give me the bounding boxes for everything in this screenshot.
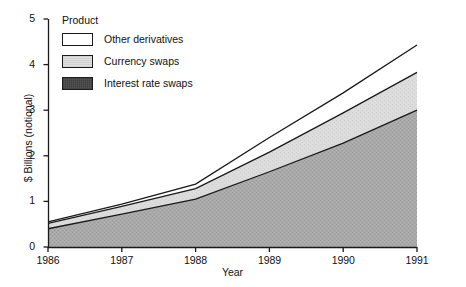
legend-item: Other derivatives [62,32,193,46]
x-axis-tick-label: 1986 [28,254,68,266]
legend-swatch-icon [62,77,93,90]
legend-item: Currency swaps [62,54,193,68]
stacked-area-chart: 543210 198619871988198919901991 $ Billio… [0,0,466,287]
legend-swatch-icon [62,33,93,46]
legend-swatch-icon [62,55,93,68]
legend-title: Product [62,14,193,26]
legend-item-label: Interest rate swaps [104,77,193,89]
x-axis-tick-label: 1988 [176,254,216,266]
x-axis-tick-label: 1989 [249,254,289,266]
y-axis-title: $ Billions (notional) [22,58,34,218]
legend-item-label: Currency swaps [104,55,179,67]
x-axis-title: Year [48,266,417,278]
y-axis-tick-label: 0 [15,240,35,252]
y-axis-ticks [44,19,49,247]
legend-item: Interest rate swaps [62,76,193,90]
y-axis-tick-label: 5 [15,12,35,24]
x-axis-tick-label: 1990 [323,254,363,266]
legend: Product Other derivativesCurrency swapsI… [62,14,193,98]
legend-items: Other derivativesCurrency swapsInterest … [62,32,193,90]
x-axis-tick-label: 1987 [102,254,142,266]
x-axis-tick-label: 1991 [397,254,437,266]
legend-item-label: Other derivatives [104,33,183,45]
